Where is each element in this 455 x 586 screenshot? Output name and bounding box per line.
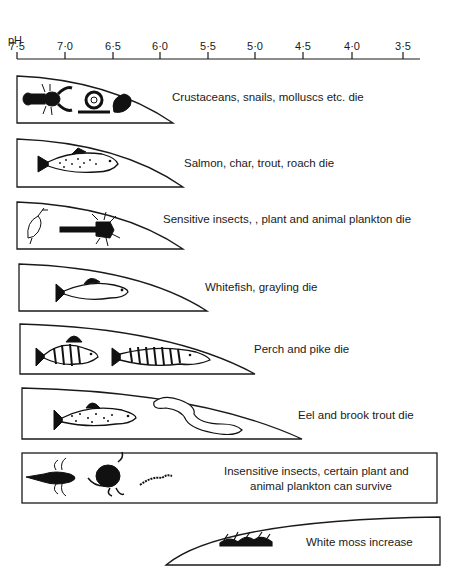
tick-label: 5·0 — [247, 40, 263, 52]
band-eel-trout-shape — [22, 388, 302, 439]
tick-label: 4·5 — [295, 40, 311, 52]
band-label-insensitive-line2: animal plankton can survive — [250, 479, 392, 493]
tick-label: 4·0 — [344, 40, 360, 52]
tick-label: 3·5 — [395, 40, 411, 52]
ph-axis — [17, 52, 420, 59]
band-label-eel-trout: Eel and brook trout die — [298, 408, 414, 422]
tick-label: 7·5 — [9, 40, 25, 52]
band-label-sensitive-insects: Sensitive insects, , plant and animal pl… — [163, 212, 411, 226]
band-label-white-moss: White moss increase — [306, 535, 413, 549]
band-label-whitefish: Whitefish, grayling die — [205, 280, 318, 294]
tick-label: 7·0 — [57, 40, 73, 52]
tick-label: 5·5 — [200, 40, 216, 52]
band-label-crustaceans: Crustaceans, snails, molluscs etc. die — [172, 90, 364, 104]
band-insensitive-shape — [22, 453, 437, 503]
tick-label: 6·0 — [152, 40, 168, 52]
band-label-insensitive-line1: Insensitive insects, certain plant and — [224, 464, 409, 478]
band-label-perch-pike: Perch and pike die — [254, 342, 349, 356]
band-label-salmon: Salmon, char, trout, roach die — [184, 156, 334, 170]
tick-label: 6·5 — [105, 40, 121, 52]
